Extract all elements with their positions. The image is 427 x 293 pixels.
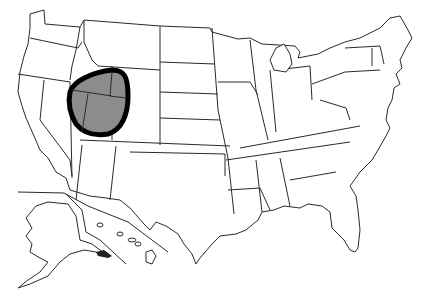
alaska	[18, 202, 108, 288]
us-map-svg	[0, 0, 427, 293]
hawaii	[96, 223, 156, 264]
highlight-shape	[69, 70, 128, 135]
us-map	[0, 0, 427, 293]
highlighted-region	[69, 70, 128, 135]
